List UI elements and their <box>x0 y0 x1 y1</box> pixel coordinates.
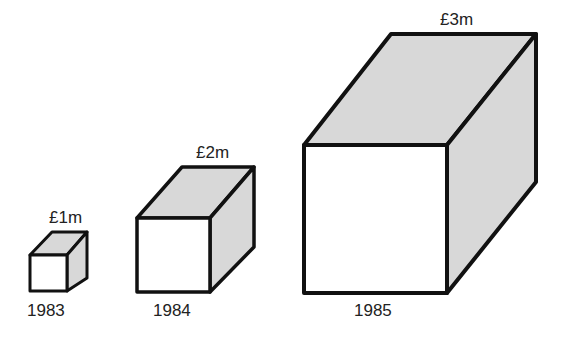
value-label-1985: £3m <box>440 11 473 28</box>
cube-1985 <box>304 34 536 293</box>
value-label-1983: £1m <box>49 209 82 226</box>
year-label-1984: 1984 <box>153 302 191 319</box>
cube-1984 <box>137 167 254 292</box>
cube-1984-front <box>137 218 210 292</box>
year-label-1983: 1983 <box>27 302 65 319</box>
year-label-1985: 1985 <box>354 302 392 319</box>
cube-1985-front <box>304 145 447 293</box>
cube-1983 <box>30 232 87 291</box>
cube-chart <box>0 0 569 342</box>
value-label-1984: £2m <box>196 144 229 161</box>
cube-1983-front <box>30 255 67 291</box>
